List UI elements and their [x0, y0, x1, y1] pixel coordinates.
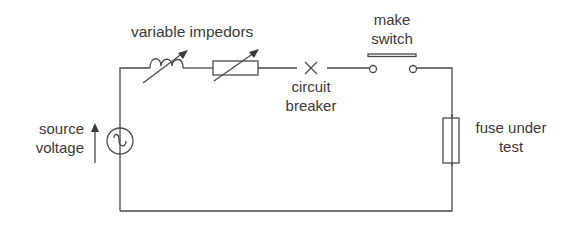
- label-circuit: circuit: [278, 77, 344, 96]
- fuse-icon: [443, 114, 459, 166]
- label-make-switch: make switch: [362, 10, 422, 48]
- variable-resistor-icon: [213, 49, 259, 81]
- label-test: test: [466, 137, 556, 156]
- label-voltage: voltage: [22, 138, 84, 157]
- label-fuse-under-test: fuse under test: [466, 118, 556, 156]
- label-switch: switch: [362, 29, 422, 48]
- label-breaker: breaker: [278, 96, 344, 115]
- ac-source-icon: [107, 128, 133, 154]
- voltage-arrow-icon: [91, 123, 99, 163]
- label-make: make: [362, 10, 422, 29]
- label-source-voltage: source voltage: [22, 119, 84, 157]
- push-switch-icon: [368, 54, 417, 73]
- label-source: source: [22, 119, 84, 138]
- breaker-x-icon: [305, 62, 317, 74]
- label-variable-impedors: variable impedors: [131, 22, 253, 41]
- variable-inductor-icon: [143, 50, 188, 83]
- label-fuse-under: fuse under: [466, 118, 556, 137]
- label-circuit-breaker: circuit breaker: [278, 77, 344, 115]
